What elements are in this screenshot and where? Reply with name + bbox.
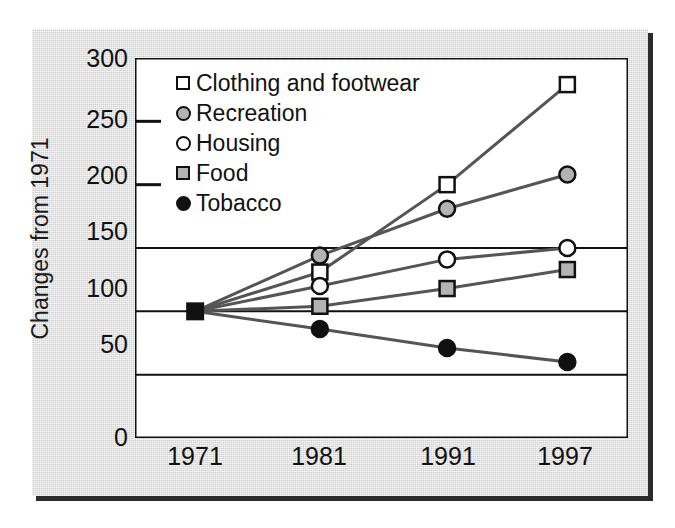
chart-legend: Clothing and footwear Recreation Housing… [170,68,500,218]
x-tick-1991: 1991 [388,444,508,469]
data-point-marker [439,251,455,267]
y-tick-0: 0 [48,425,128,450]
chart-figure: Changes from 1971 300 250 200 150 100 50… [0,0,675,528]
legend-label: Recreation [196,102,307,125]
panel-shadow-bottom [36,496,653,501]
data-point-marker [312,278,328,294]
open-square-icon [170,76,196,90]
data-point-marker [312,299,327,314]
x-tick-1971: 1971 [135,444,255,469]
black-circle-icon [170,196,196,211]
y-tick-250: 250 [48,107,128,132]
y-tick-200: 200 [48,163,128,188]
open-circle-icon [170,136,196,151]
legend-item-tobacco: Tobacco [170,188,500,218]
y-axis-tick-labels: 300 250 200 150 100 50 0 [42,0,128,528]
data-point-marker [439,340,455,356]
data-point-marker [312,248,328,264]
x-tick-1981: 1981 [259,444,379,469]
data-point-marker [440,281,455,296]
data-point-marker [559,354,575,370]
data-point-marker [559,167,575,183]
data-point-marker [559,240,575,256]
x-tick-1997: 1997 [505,444,625,469]
legend-item-recreation: Recreation [170,98,500,128]
y-tick-300: 300 [48,46,128,71]
y-tick-150: 150 [48,219,128,244]
legend-item-clothing-and-footwear: Clothing and footwear [170,68,500,98]
data-point-marker [312,321,328,337]
legend-label: Food [196,162,248,185]
legend-item-housing: Housing [170,128,500,158]
origin-marker-1971 [186,302,204,320]
data-point-marker [560,77,575,92]
gray-square-icon [170,166,196,180]
legend-item-food: Food [170,158,500,188]
y-tick-100: 100 [48,276,128,301]
legend-label: Clothing and footwear [196,72,420,95]
data-point-marker [560,262,575,277]
y-tick-50: 50 [48,332,128,357]
legend-label: Tobacco [196,192,282,215]
panel-shadow-right [648,33,653,500]
gray-circle-icon [170,106,196,121]
legend-label: Housing [196,132,280,155]
